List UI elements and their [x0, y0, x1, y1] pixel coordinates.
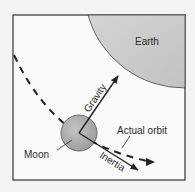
- orbit-diagram: Earth Gravity Inertia Moon Actual orbit: [0, 0, 195, 192]
- actual-orbit-label: Actual orbit: [117, 125, 167, 136]
- moon-label: Moon: [24, 149, 49, 160]
- earth-label: Earth: [135, 36, 159, 47]
